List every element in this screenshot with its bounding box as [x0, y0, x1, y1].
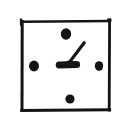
marker-9-icon [29, 61, 39, 72]
clock-center-pivot-icon [65, 60, 73, 67]
marker-6-icon [65, 94, 74, 103]
clock-drawing [0, 0, 124, 132]
marker-12-icon [61, 28, 71, 40]
face-edge-top [22, 21, 111, 22]
marker-3-icon [95, 61, 103, 71]
clock-sketch-canvas: Hand-drawn analog clock sketch [0, 0, 124, 132]
face-edge-bottom [22, 110, 110, 111]
